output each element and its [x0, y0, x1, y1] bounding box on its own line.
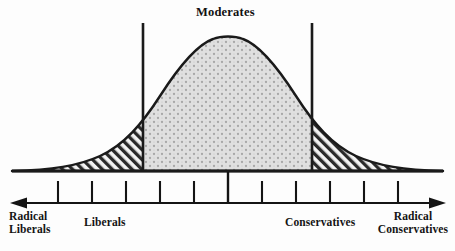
axis-label-radical-liberals: Radical Liberals [9, 210, 51, 235]
axis-label-radical-conservatives: Radical Conservatives [371, 210, 455, 235]
chart-title-moderates: Moderates [196, 5, 255, 20]
curve-region-moderates [12, 37, 443, 172]
axis-arrow-right-icon [429, 198, 446, 209]
axis-label-conservatives: Conservatives [285, 216, 355, 229]
axis-label-liberals: Liberals [84, 216, 126, 229]
bell-curve-figure: Moderates Radical Liberals Liberals Cons… [0, 0, 455, 251]
axis-arrow-left-icon [10, 198, 27, 209]
